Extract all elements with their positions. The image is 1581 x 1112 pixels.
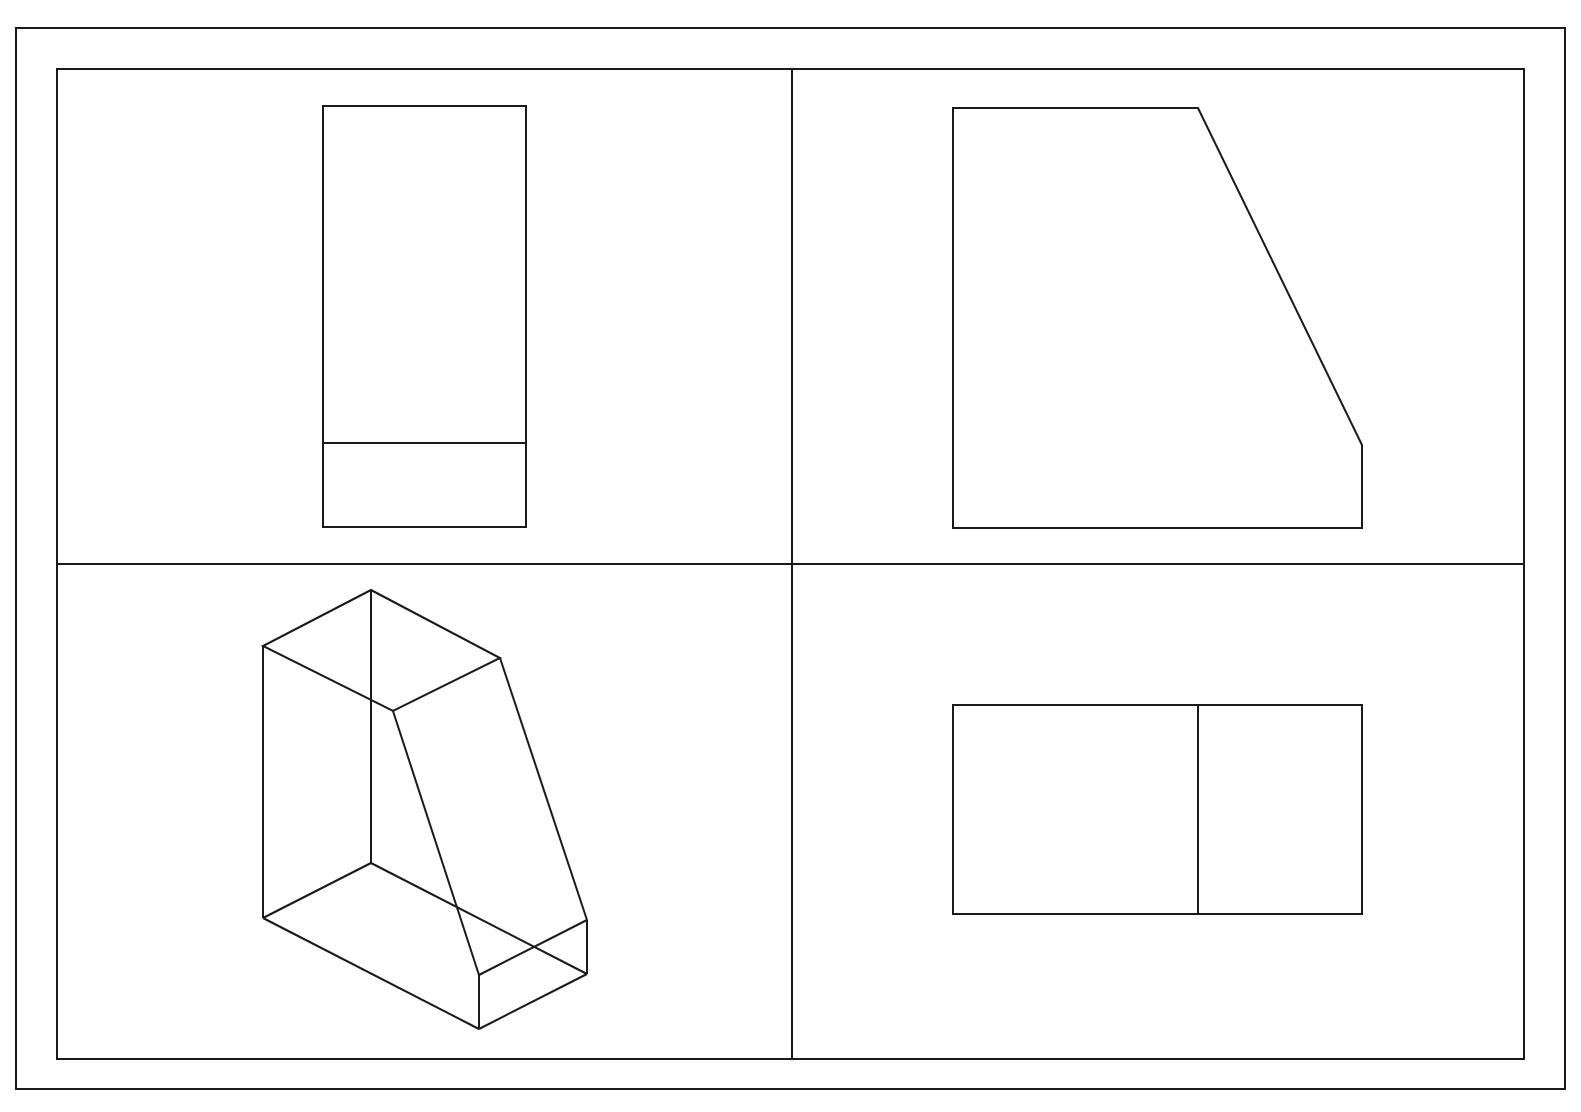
isometric-view xyxy=(263,590,587,1029)
front-view-outline xyxy=(323,106,526,527)
top-view xyxy=(953,705,1362,914)
top-view-outline xyxy=(953,705,1362,914)
side-view-outline xyxy=(953,108,1362,528)
iso-front-bottom xyxy=(263,918,479,1029)
outer-border xyxy=(16,28,1565,1089)
iso-right-bottom xyxy=(479,974,587,1029)
side-view xyxy=(953,108,1362,528)
iso-slant-front xyxy=(393,711,479,975)
iso-back-bottom-left xyxy=(263,863,371,918)
iso-slant-back xyxy=(500,658,587,920)
technical-drawing-sheet xyxy=(0,0,1581,1112)
iso-top-face xyxy=(263,590,500,711)
front-view xyxy=(323,106,526,527)
iso-back-bottom-right xyxy=(371,863,587,974)
